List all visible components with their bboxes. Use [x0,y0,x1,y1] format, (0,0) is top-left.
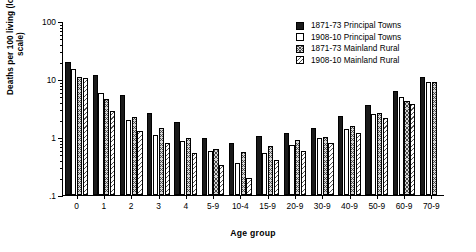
x-tick-label: 3 [156,201,161,211]
bar [410,104,415,195]
x-tick [159,195,160,199]
bar [301,151,306,195]
bar [147,113,152,195]
bar [165,143,170,195]
legend-row: 1908-10 Mainland Rural [296,55,401,67]
bar [180,141,185,195]
bar [274,160,279,195]
bar [202,138,207,195]
x-tick-label: 1 [102,201,107,211]
legend-label: 1908-10 Principal Towns [311,33,401,42]
y-tick-minor [60,35,63,36]
bar [338,116,343,195]
y-tick-major [58,196,63,197]
bar [383,118,388,195]
y-tick-label: .1 [49,191,56,201]
y-tick-minor [60,83,63,84]
legend-row: 1908-10 Principal Towns [296,32,401,44]
x-tick [240,195,241,199]
y-tick-minor [60,97,63,98]
bar [98,93,103,195]
bar [186,138,191,195]
x-tick-label: 10-4 [232,201,249,211]
chart-legend: 1871-73 Principal Towns1908-10 Principal… [296,20,401,66]
bar [262,153,267,195]
x-tick-label: 30-9 [314,201,331,211]
x-tick [213,195,214,199]
x-tick-label: 50-9 [368,201,385,211]
bar [120,95,125,195]
bar [93,75,98,195]
bar [65,62,70,195]
x-tick [77,195,78,199]
x-tick-label: 20-9 [287,201,304,211]
bar [213,149,218,195]
bar [268,146,273,195]
bar [229,143,234,195]
bar [377,113,382,195]
bar [344,129,349,195]
x-axis-title: Age group [62,228,444,238]
x-tick [431,195,432,199]
bar [256,136,261,195]
y-tick-minor [60,147,63,148]
bar [432,82,437,195]
x-tick-label: 15-9 [259,201,276,211]
legend-label: 1871-73 Mainland Rural [311,44,400,53]
chart-figure: Deaths per 100 living (log scale) 100101… [0,0,476,252]
bar [71,69,76,195]
bar [399,97,404,195]
bar [174,122,179,195]
y-tick-minor [60,168,63,169]
x-tick [268,195,269,199]
y-tick-minor [60,121,63,122]
bar [246,178,251,195]
y-tick-minor [60,45,63,46]
y-tick-minor [60,25,63,26]
bar [404,101,409,195]
y-tick-minor [60,155,63,156]
y-tick-label: 100 [42,17,56,27]
y-tick-minor [60,52,63,53]
legend-swatch-icon [296,45,304,53]
bar [192,153,197,195]
y-tick-label: 10 [47,75,56,85]
bar [137,131,142,195]
y-tick-label: 1 [51,133,56,143]
y-tick-minor [60,179,63,180]
x-tick [295,195,296,199]
y-tick-minor [60,110,63,111]
bar [235,163,240,195]
bar [323,137,328,195]
bar [317,138,322,195]
x-tick-label: 70-9 [423,201,440,211]
bar [371,114,376,195]
bar [132,117,137,195]
y-tick-minor [60,86,63,87]
y-tick-minor [60,93,63,94]
y-tick-major [58,138,63,139]
y-tick-minor [60,141,63,142]
bar [104,99,109,195]
x-tick [404,195,405,199]
x-tick [350,195,351,199]
bar [77,77,82,195]
bar [208,151,213,195]
legend-row: 1871-73 Principal Towns [296,20,401,32]
bar [311,128,316,195]
legend-swatch-icon [296,33,304,41]
bar [83,78,88,195]
y-tick-major [58,80,63,81]
bar [365,105,370,195]
y-tick-minor [60,39,63,40]
legend-row: 1871-73 Mainland Rural [296,43,401,55]
bar [426,82,431,195]
x-tick-label: 5-9 [207,201,219,211]
bar [219,165,224,195]
bar [110,111,115,195]
bar [284,133,289,195]
bar [159,128,164,195]
bar [295,140,300,195]
bar [241,152,246,195]
bar [420,77,425,195]
